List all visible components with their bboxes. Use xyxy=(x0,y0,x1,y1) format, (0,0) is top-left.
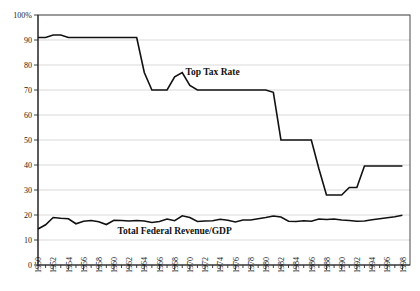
y-axis-tick-label: 40 xyxy=(24,161,32,170)
x-axis-tick-label: 1990 xyxy=(338,257,347,273)
x-axis-tick-label: 1972 xyxy=(201,257,210,273)
x-axis-tick-label: 1950 xyxy=(34,257,43,273)
y-axis-tick-label: 10 xyxy=(24,236,32,245)
x-axis-tick-label: 1974 xyxy=(216,257,225,273)
x-axis-tick-label: 1982 xyxy=(277,257,286,273)
tax-rate-chart: 0102030405060708090100% 1950195219541956… xyxy=(0,0,420,291)
x-axis-tick-label: 1978 xyxy=(247,257,256,273)
data-series-group xyxy=(38,35,402,229)
x-axis-tick-label: 1988 xyxy=(323,257,332,273)
x-axis-tick-label: 1960 xyxy=(110,257,119,273)
y-axis-tick-label: 100% xyxy=(13,11,32,20)
x-axis-tick-label: 1992 xyxy=(353,257,362,273)
y-axis-tick-label: 0 xyxy=(28,261,32,270)
y-axis-tick-label: 90 xyxy=(24,36,32,45)
x-axis-tick-label: 1994 xyxy=(368,257,377,273)
y-axis-tick-label: 80 xyxy=(24,61,32,70)
x-axis-tick-label: 1966 xyxy=(156,257,165,273)
x-axis-tick-label: 1980 xyxy=(262,257,271,273)
chart-canvas: 0102030405060708090100% 1950195219541956… xyxy=(0,0,420,291)
x-axis-tick-label: 1968 xyxy=(171,257,180,273)
x-axis-tick-label: 1952 xyxy=(49,257,58,273)
x-axis-tick-label: 1976 xyxy=(232,257,241,273)
x-axis-tick-label: 1998 xyxy=(399,257,408,273)
y-axis-tick-labels: 0102030405060708090100% xyxy=(13,11,32,270)
y-axis-tick-label: 50 xyxy=(24,136,32,145)
y-axis-tick-label: 20 xyxy=(24,211,32,220)
x-axis-tick-label: 1964 xyxy=(140,257,149,273)
x-axis-tick-label: 1970 xyxy=(186,257,195,273)
y-axis-tick-label: 60 xyxy=(24,111,32,120)
y-axis-tick-label: 70 xyxy=(24,86,32,95)
x-axis-tick-label: 1986 xyxy=(308,257,317,273)
series-annotation-label: Top Tax Rate xyxy=(186,67,240,77)
x-axis-tick-label: 1954 xyxy=(65,257,74,273)
x-axis-tick-label: 1984 xyxy=(292,257,301,273)
x-axis-tick-label: 1996 xyxy=(383,257,392,273)
x-axis-tick-label: 1958 xyxy=(95,257,104,273)
y-axis-tick-label: 30 xyxy=(24,186,32,195)
series-annotations: Top Tax RateTotal Federal Revenue/GDP xyxy=(118,67,240,236)
x-axis-tick-label: 1962 xyxy=(125,257,134,273)
x-axis-tick-label: 1956 xyxy=(80,257,89,273)
series-annotation-label: Total Federal Revenue/GDP xyxy=(118,226,232,236)
gridlines-group xyxy=(38,15,410,240)
